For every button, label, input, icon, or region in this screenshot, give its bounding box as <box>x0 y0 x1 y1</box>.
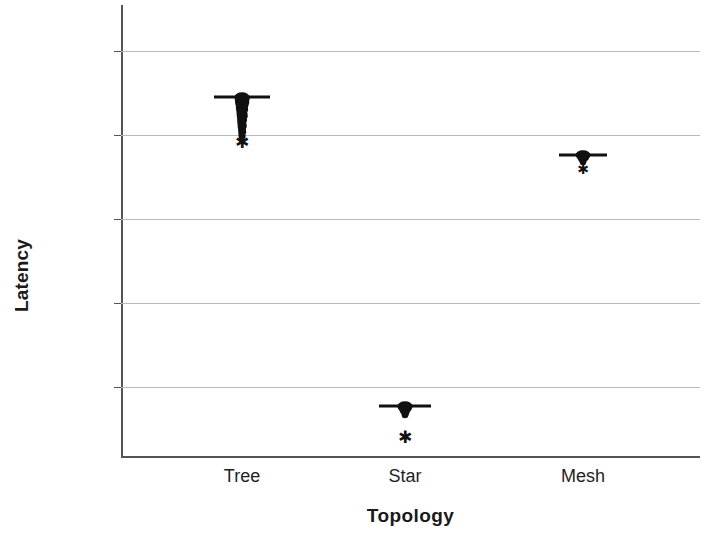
gridline <box>121 135 700 136</box>
chart-figure: Latency ✱✱✱ ,0300,0275,0250,0225,0200 Tr… <box>0 0 710 551</box>
x-axis-line <box>121 456 700 458</box>
y-tick-mark <box>114 387 121 388</box>
y-tick-mark <box>114 219 121 220</box>
x-axis-title: Topology <box>121 505 700 527</box>
y-tick-mark <box>114 51 121 52</box>
data-point <box>402 414 408 418</box>
outlier-marker: ✱ <box>235 133 249 150</box>
y-tick-mark <box>114 135 121 136</box>
gridline <box>121 219 700 220</box>
y-axis-title: Latency <box>0 0 44 551</box>
y-axis-line <box>121 5 123 458</box>
outlier-marker: ✱ <box>398 428 412 445</box>
gridline <box>121 387 700 388</box>
x-tick-label-tree: Tree <box>224 466 260 487</box>
plot-area: ✱✱✱ <box>121 5 700 458</box>
x-tick-label-mesh: Mesh <box>561 466 605 487</box>
outlier-marker: ✱ <box>577 162 589 176</box>
x-tick-label-star: Star <box>388 466 421 487</box>
gridline <box>121 51 700 52</box>
gridline <box>121 303 700 304</box>
y-tick-mark <box>114 303 121 304</box>
